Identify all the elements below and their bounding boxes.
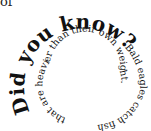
fact-text: Bald eagles catch fish — [97, 41, 149, 131]
spiral-text-graphic: Did you know? Bald eagles catch fish tha… — [0, 0, 151, 131]
